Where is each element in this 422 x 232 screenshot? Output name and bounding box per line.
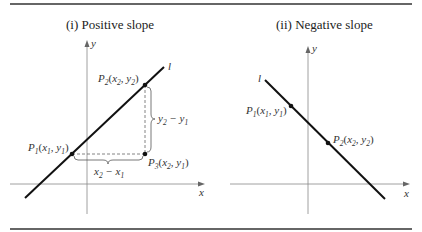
y-axis-arrow-icon: [85, 40, 90, 47]
point-p1: [289, 104, 294, 109]
x-axis-arrow-icon: [403, 182, 410, 187]
point-p1-label: P1(x1, y1): [245, 104, 287, 119]
point-p3-label: P3(x2, y1): [147, 156, 189, 171]
x-axis-label: x: [198, 186, 204, 198]
point-p2-label: P2(x2, y2): [332, 133, 374, 148]
point-p3: [143, 152, 148, 157]
line-l: [25, 67, 164, 198]
rise-brace: [147, 87, 155, 152]
y-axis-label: y: [90, 37, 96, 49]
run-brace: [74, 156, 143, 164]
y-axis-arrow-icon: [306, 46, 311, 53]
figure-positive-slope: (i) Positive slope x y y2 − y1 x2 − x1 l…: [10, 17, 205, 214]
figure-title: (i) Positive slope: [66, 17, 154, 32]
run-label: x2 − x1: [93, 165, 124, 180]
point-p1: [70, 152, 75, 157]
point-p2-label: P2(x2, y2): [97, 72, 139, 87]
slope-diagram: (i) Positive slope x y y2 − y1 x2 − x1 l…: [0, 0, 422, 232]
line-label: l: [258, 72, 261, 84]
point-p2: [143, 83, 148, 88]
figure-title: (ii) Negative slope: [276, 17, 373, 32]
figure-negative-slope: (ii) Negative slope x y l P1(x1, y1) P2(…: [230, 17, 410, 214]
point-p1-label: P1(x1, y1): [27, 141, 69, 156]
point-p2: [326, 141, 331, 146]
y-axis-label: y: [311, 42, 317, 54]
rise-label: y2 − y1: [157, 112, 188, 127]
line-label: l: [168, 60, 171, 72]
x-axis-label: x: [403, 187, 409, 199]
